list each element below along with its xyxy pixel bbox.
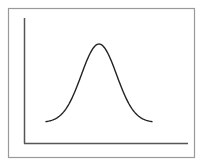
bell-curve-line [46,44,152,122]
chart-frame [9,9,195,158]
bell-curve-chart [0,0,204,167]
